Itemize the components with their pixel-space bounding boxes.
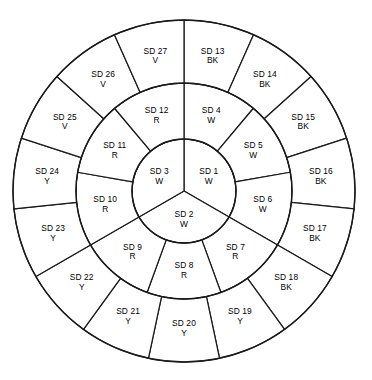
sectors-layer	[13, 20, 355, 362]
sector-wheel-svg: SD 1WSD 2WSD 3WSD 4WSD 5WSD 6WSD 7RSD 8R…	[0, 0, 372, 380]
diagram-root: SD 1WSD 2WSD 3WSD 4WSD 5WSD 6WSD 7RSD 8R…	[0, 0, 372, 380]
